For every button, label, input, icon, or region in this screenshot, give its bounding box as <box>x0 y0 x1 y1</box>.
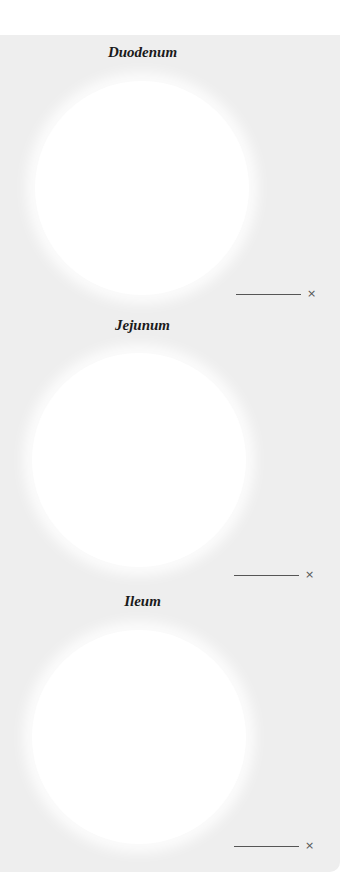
times-icon: × <box>307 288 316 299</box>
magnification-blank[interactable] <box>236 294 301 295</box>
times-icon: × <box>305 840 314 851</box>
magnification-field: × <box>234 840 314 851</box>
drawing-circle[interactable] <box>32 630 246 844</box>
magnification-field: × <box>234 569 314 580</box>
magnification-blank[interactable] <box>234 846 299 847</box>
section-title: Duodenum <box>0 44 285 61</box>
times-icon: × <box>305 569 314 580</box>
magnification-blank[interactable] <box>234 575 299 576</box>
drawing-circle[interactable] <box>32 353 246 567</box>
section-title: Jejunum <box>0 317 285 334</box>
drawing-circle[interactable] <box>35 81 249 295</box>
section-title: Ileum <box>0 593 285 610</box>
magnification-field: × <box>236 288 316 299</box>
